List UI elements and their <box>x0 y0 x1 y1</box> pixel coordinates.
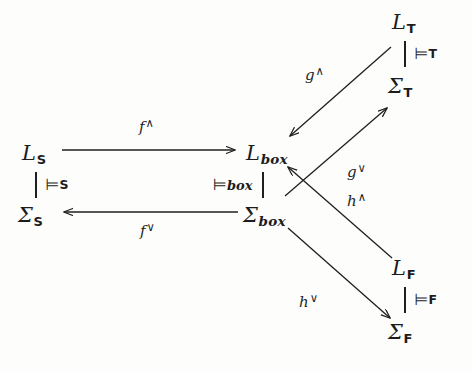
vertical-bar-icon <box>35 172 37 198</box>
node-L-S-sub: S <box>37 152 46 167</box>
node-L-F-sub: F <box>407 267 416 282</box>
commutative-diagram: LS ΣS Lbox Σbox LT ΣT LF ΣF ⊨S ⊨box ⊨T <box>0 0 472 371</box>
node-Sigma-S-base: Σ <box>18 203 33 227</box>
node-Sigma-box: Σbox <box>243 205 286 228</box>
arrow-label-f-down-sup: ∨ <box>147 220 155 234</box>
node-L-box: Lbox <box>246 143 288 166</box>
entails-icon: ⊨ <box>46 177 60 193</box>
node-Sigma-T-sub: T <box>404 85 413 100</box>
node-L-box-sub: box <box>261 151 288 167</box>
node-Sigma-F-base: Σ <box>388 320 403 344</box>
entailment-S-sub: S <box>60 179 69 192</box>
node-L-T-sub: T <box>407 21 416 36</box>
node-L-T: LT <box>392 12 416 35</box>
entails-icon: ⊨ <box>415 46 429 62</box>
arrow-label-f-down-base: f <box>140 222 146 240</box>
node-L-box-base: L <box>246 141 260 165</box>
entailment-F: ⊨F <box>404 287 437 313</box>
node-L-S-base: L <box>22 141 36 165</box>
arrow-label-h-down: h∨ <box>299 293 318 310</box>
arrow-label-h-up-base: h <box>347 192 357 210</box>
vertical-bar-icon <box>404 287 406 313</box>
vertical-bar-icon <box>262 172 264 198</box>
entails-icon: ⊨ <box>213 177 227 193</box>
entailment-T: ⊨T <box>404 41 437 67</box>
node-Sigma-box-sub: box <box>259 213 286 229</box>
arrow-label-h-down-base: h <box>299 293 309 311</box>
arrow-g-down <box>285 108 387 196</box>
node-Sigma-T-base: Σ <box>388 74 403 98</box>
entailment-S: ⊨S <box>35 172 69 198</box>
node-Sigma-T: ΣT <box>388 76 412 99</box>
entailment-T-sub: T <box>429 48 438 61</box>
arrow-label-g-up: g∧ <box>305 66 324 83</box>
arrow-label-g-up-base: g <box>305 66 315 84</box>
arrow-label-g-down-sup: ∨ <box>358 161 366 175</box>
node-L-F: LF <box>392 258 416 281</box>
entailment-box-sub: box <box>227 179 253 192</box>
node-L-S: LS <box>22 143 46 166</box>
arrow-label-f-down: f∨ <box>140 222 155 239</box>
vertical-bar-icon <box>404 41 406 67</box>
arrow-label-h-up-sup: ∧ <box>358 190 366 204</box>
arrow-label-f-up-sup: ∧ <box>146 116 154 130</box>
arrow-h-up <box>288 167 392 258</box>
arrow-label-h-down-sup: ∨ <box>310 291 318 305</box>
node-L-T-base: L <box>392 10 406 34</box>
entails-icon: ⊨ <box>415 292 429 308</box>
arrow-label-f-up: f∧ <box>139 118 154 135</box>
node-L-F-base: L <box>392 256 406 280</box>
arrow-label-g-down: g∨ <box>347 163 366 180</box>
entailment-F-sub: F <box>429 294 438 307</box>
node-Sigma-S: ΣS <box>18 205 43 228</box>
node-Sigma-F-sub: F <box>404 331 413 346</box>
arrow-label-g-down-base: g <box>347 163 357 181</box>
arrow-label-h-up: h∧ <box>347 192 366 209</box>
arrow-label-f-up-base: f <box>139 118 145 136</box>
entailment-box: ⊨box <box>213 172 264 198</box>
node-Sigma-S-sub: S <box>34 214 43 229</box>
node-Sigma-F: ΣF <box>388 322 412 345</box>
arrow-g-up <box>290 47 391 136</box>
node-Sigma-box-base: Σ <box>243 203 258 227</box>
arrow-label-g-up-sup: ∧ <box>316 64 324 78</box>
